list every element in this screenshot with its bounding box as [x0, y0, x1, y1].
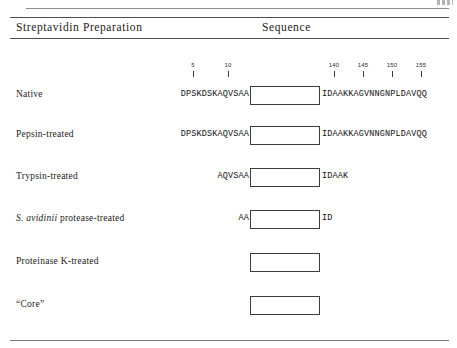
row-label-text: protease-treated [57, 213, 124, 223]
residue-tick-mark [334, 71, 335, 77]
core-region-box [250, 296, 320, 315]
row-label-preparation: S. avidinii protease-treated [16, 213, 125, 223]
table-bottom-rule [10, 340, 449, 341]
table-row: “Core” [0, 295, 457, 317]
n-terminal-sequence: DPSKDSKAQVSAA [181, 89, 249, 99]
table-row: S. avidinii protease-treatedAAID [0, 209, 457, 231]
c-terminal-sequence: IDAAK [322, 171, 348, 181]
residue-tick-mark [392, 71, 393, 77]
header-top-rule [10, 17, 449, 18]
residue-tick-mark [228, 71, 229, 77]
residue-tick-label: 145 [358, 62, 369, 68]
row-label-preparation: Pepsin-treated [16, 129, 74, 139]
column-header-preparation: Streptavidin Preparation [16, 21, 143, 33]
row-label-preparation: “Core” [16, 299, 44, 309]
residue-number-scale: 510140145150155 [0, 62, 457, 82]
residue-tick-mark [363, 71, 364, 77]
core-region-box [250, 210, 320, 229]
c-terminal-sequence: ID [322, 213, 333, 223]
row-label-preparation: Trypsin-treated [16, 171, 78, 181]
c-terminal-sequence: IDAAKKAGVNNGNPLDAVQQ [322, 129, 427, 139]
core-region-box [250, 253, 320, 272]
table-row: Trypsin-treatedAQVSAAIDAAK [0, 167, 457, 189]
top-partial-rule [26, 8, 449, 9]
residue-tick-label: 5 [191, 62, 195, 68]
core-region-box [250, 86, 320, 105]
row-label-preparation: Native [16, 89, 43, 99]
core-region-box [250, 126, 320, 145]
row-label-text: Pepsin-treated [16, 129, 74, 139]
column-header-sequence: Sequence [262, 21, 311, 33]
residue-tick-mark [193, 71, 194, 77]
row-label-text: Proteinase K-treated [16, 256, 99, 266]
table-row: Pepsin-treatedDPSKDSKAQVSAAIDAAKKAGVNNGN… [0, 125, 457, 147]
table-row: Proteinase K-treated [0, 252, 457, 274]
n-terminal-sequence: AQVSAA [217, 171, 249, 181]
residue-tick-mark [421, 71, 422, 77]
row-label-text: “Core” [16, 299, 44, 309]
residue-tick-label: 10 [224, 62, 231, 68]
core-region-box [250, 168, 320, 187]
residue-tick-label: 140 [329, 62, 340, 68]
scan-corner-mark [437, 0, 453, 5]
table-row: NativeDPSKDSKAQVSAAIDAAKKAGVNNGNPLDAVQQ [0, 85, 457, 107]
row-label-text: Native [16, 89, 43, 99]
residue-tick-label: 155 [416, 62, 427, 68]
header-bottom-rule [10, 38, 449, 39]
row-label-text: Trypsin-treated [16, 171, 78, 181]
row-label-preparation: Proteinase K-treated [16, 256, 99, 266]
species-name-italic: S. avidinii [16, 213, 57, 223]
residue-tick-label: 150 [387, 62, 398, 68]
n-terminal-sequence: AA [238, 213, 249, 223]
c-terminal-sequence: IDAAKKAGVNNGNPLDAVQQ [322, 89, 427, 99]
n-terminal-sequence: DPSKDSKAQVSAA [181, 129, 249, 139]
